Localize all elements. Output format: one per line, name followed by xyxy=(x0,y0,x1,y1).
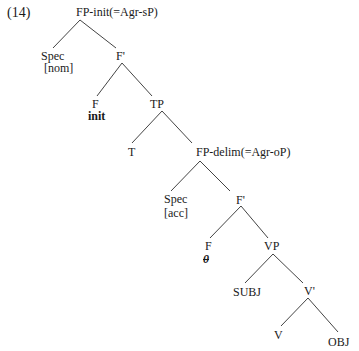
node-vp: VP xyxy=(264,240,279,253)
edge-fbar2-f xyxy=(210,206,241,238)
feature-null: 0 xyxy=(203,253,209,266)
node-fbar-low: F' xyxy=(236,194,245,207)
node-t: T xyxy=(128,146,135,159)
node-tp: TP xyxy=(150,98,164,111)
node-fp-init: FP-init(=Agr-sP) xyxy=(76,6,158,19)
edge-vbar-v xyxy=(281,298,308,326)
edge-root-fbar xyxy=(80,20,116,48)
edge-vbar-obj xyxy=(308,298,338,332)
node-fp-delim: FP-delim(=Agr-oP) xyxy=(196,146,291,159)
edge-fbar-f xyxy=(97,63,122,96)
edge-tp-t xyxy=(132,111,162,143)
edge-fbar-tp xyxy=(122,63,152,96)
feature-init: init xyxy=(88,110,105,123)
node-obj: OBJ xyxy=(328,336,349,349)
edge-fpdelim-spec xyxy=(171,161,200,191)
edge-fbar2-vp xyxy=(241,206,268,238)
node-v: V xyxy=(274,329,283,342)
node-subj: SUBJ xyxy=(233,286,261,299)
case-nom: [nom] xyxy=(44,62,73,75)
case-acc: [acc] xyxy=(164,207,188,220)
edge-root-spec xyxy=(53,20,80,48)
example-number: (14) xyxy=(7,6,30,19)
node-vbar: V' xyxy=(304,285,315,298)
edge-vp-vbar xyxy=(273,254,303,283)
node-spec-acc: Spec xyxy=(164,193,187,206)
edge-fpdelim-fbar xyxy=(200,161,230,191)
edge-vp-subj xyxy=(245,254,273,283)
node-fbar-top: F' xyxy=(116,50,125,63)
edge-tp-fpdelim xyxy=(162,111,192,143)
